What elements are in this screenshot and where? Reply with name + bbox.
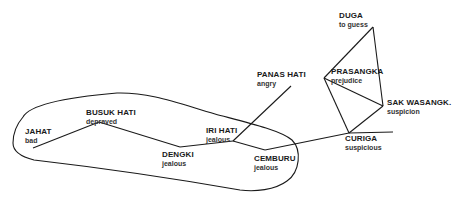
node-gloss: suspicious	[345, 143, 382, 152]
edge-iri-hati-cemburu	[233, 141, 265, 150]
edge-curiga-tail	[349, 132, 393, 133]
node-label-iri-hati: IRI HATIjealous	[206, 126, 237, 144]
node-term: DUGA	[339, 11, 368, 20]
node-term: SAK WASANGK.	[387, 98, 451, 107]
node-gloss: jealous	[162, 159, 194, 168]
node-gloss: jealous	[206, 135, 237, 144]
node-term: CURIGA	[345, 134, 382, 143]
node-term: PANAS HATI	[257, 70, 306, 79]
node-label-duga: DUGAto guess	[339, 11, 368, 29]
node-term: CEMBURU	[254, 154, 296, 163]
node-gloss: to guess	[339, 20, 368, 29]
node-term: BUSUK HATI	[86, 108, 136, 117]
edge-curiga-sak-wasangk	[349, 106, 383, 133]
jealousy-cluster-enclosure	[13, 93, 298, 191]
node-gloss: depraved	[86, 117, 136, 126]
node-label-busuk-hati: BUSUK HATIdepraved	[86, 108, 136, 126]
edge-curiga-prasangka	[324, 78, 349, 133]
node-label-sak-wasangk: SAK WASANGK.suspicion	[387, 98, 451, 116]
node-gloss: jealous	[254, 163, 296, 172]
node-term: PRASANGKA	[331, 67, 383, 76]
node-label-curiga: CURIGAsuspicious	[345, 134, 382, 152]
node-term: IRI HATI	[206, 126, 237, 135]
node-label-jahat: JAHATbad	[25, 127, 52, 145]
node-label-prasangka: PRASANGKAprejudice	[331, 67, 383, 85]
node-label-panas-hati: PANAS HATIangry	[257, 70, 306, 88]
node-gloss: bad	[25, 136, 52, 145]
node-label-dengki: DENGKIjealous	[162, 150, 194, 168]
node-term: DENGKI	[162, 150, 194, 159]
edge-cemburu-curiga	[265, 133, 349, 150]
node-gloss: prejudice	[331, 76, 383, 85]
node-gloss: angry	[257, 79, 306, 88]
node-term: JAHAT	[25, 127, 52, 136]
node-label-cemburu: CEMBURUjealous	[254, 154, 296, 172]
edge-iri-hati-panas-hati	[233, 86, 291, 141]
node-gloss: suspicion	[387, 107, 451, 116]
